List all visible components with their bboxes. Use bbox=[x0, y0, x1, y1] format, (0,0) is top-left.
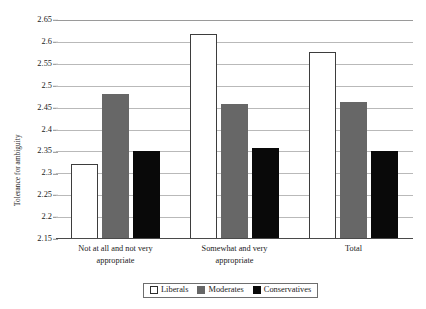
bar-moderates bbox=[340, 102, 367, 239]
bar-chart: Tolerance for ambiguity 2.652.62.552.52.… bbox=[0, 0, 426, 309]
legend-item-liberals[interactable]: Liberals bbox=[150, 286, 188, 294]
y-axis-tick-label: 2.55 bbox=[6, 60, 52, 68]
y-axis-tick-mark bbox=[53, 239, 58, 240]
x-axis-category-label-line: appropriate bbox=[175, 255, 294, 267]
y-axis-tick-label: 2.4 bbox=[6, 125, 52, 133]
x-axis-category-label-line: Total bbox=[345, 244, 362, 253]
bar-conservatives bbox=[133, 151, 160, 239]
y-axis-tick-label: 2.2 bbox=[6, 213, 52, 221]
bar-moderates bbox=[221, 104, 248, 239]
y-axis-tick-label: 2.15 bbox=[6, 235, 52, 243]
legend-swatch-moderates bbox=[197, 286, 205, 294]
bar-conservatives bbox=[371, 151, 398, 239]
bar-groups bbox=[56, 20, 413, 239]
bar-conservatives bbox=[252, 148, 279, 239]
x-axis-category-labels: Not at all and not veryappropriateSomewh… bbox=[56, 243, 413, 267]
legend-item-moderates[interactable]: Moderates bbox=[197, 286, 243, 294]
bar-group bbox=[294, 20, 413, 239]
bar-group-bars bbox=[175, 20, 294, 239]
legend-label: Conservatives bbox=[264, 286, 311, 294]
y-axis-tick-label: 2.5 bbox=[6, 81, 52, 89]
legend-item-conservatives[interactable]: Conservatives bbox=[253, 286, 311, 294]
chart-legend: LiberalsModeratesConservatives bbox=[143, 283, 318, 298]
bar-group-bars bbox=[294, 20, 413, 239]
legend-label: Liberals bbox=[161, 286, 188, 294]
y-axis-tick-labels: 2.652.62.552.52.452.42.352.32.252.22.15 bbox=[0, 20, 52, 239]
x-axis-category-label-line: appropriate bbox=[56, 255, 175, 267]
legend-swatch-liberals bbox=[150, 286, 158, 294]
bar-moderates bbox=[102, 94, 129, 239]
bar-group bbox=[175, 20, 294, 239]
y-axis-tick-label: 2.45 bbox=[6, 103, 52, 111]
bar-liberals bbox=[309, 52, 336, 239]
y-axis-tick-label: 2.25 bbox=[6, 191, 52, 199]
bar-group bbox=[56, 20, 175, 239]
x-axis-line bbox=[56, 238, 413, 239]
plot-area bbox=[56, 20, 413, 239]
legend-label: Moderates bbox=[208, 286, 243, 294]
bar-group-bars bbox=[56, 20, 175, 239]
y-axis-tick-label: 2.6 bbox=[6, 38, 52, 46]
legend-swatch-conservatives bbox=[253, 286, 261, 294]
x-axis-category-label: Not at all and not veryappropriate bbox=[56, 243, 175, 267]
x-axis-category-label: Total bbox=[294, 243, 413, 267]
y-axis-tick-label: 2.35 bbox=[6, 147, 52, 155]
x-axis-category-label: Somewhat and veryappropriate bbox=[175, 243, 294, 267]
y-axis-tick-label: 2.3 bbox=[6, 169, 52, 177]
x-axis-category-label-line: Somewhat and very bbox=[202, 244, 268, 253]
y-axis-tick-label: 2.65 bbox=[6, 16, 52, 24]
bar-liberals bbox=[190, 34, 217, 239]
bar-liberals bbox=[71, 164, 98, 239]
x-axis-category-label-line: Not at all and not very bbox=[78, 244, 152, 253]
